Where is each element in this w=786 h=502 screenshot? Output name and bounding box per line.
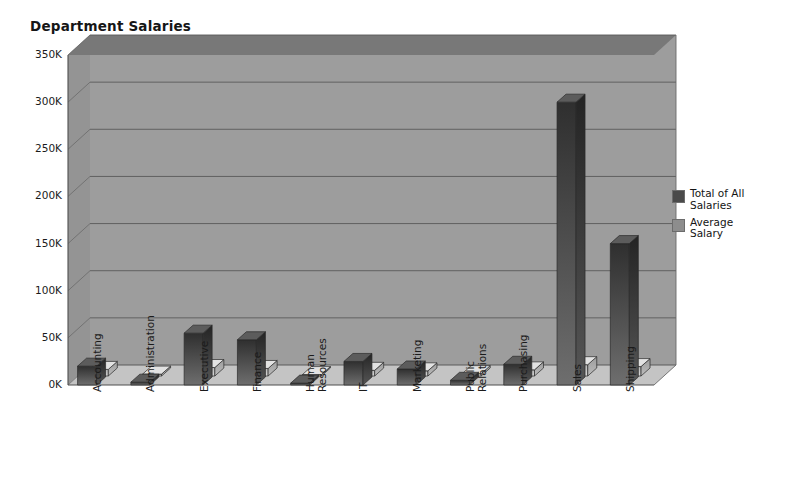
x-axis-tick-label: Shipping [625, 346, 637, 392]
chart-container: Department Salaries 0K50K100K150K200K250… [0, 0, 786, 502]
legend-item[interactable]: Average Salary [672, 217, 784, 241]
legend-item[interactable]: Total of All Salaries [672, 188, 784, 212]
x-axis-tick-label: Public Relations [465, 344, 488, 392]
x-axis-tick-label: Administration [145, 315, 157, 392]
legend-label: Average Salary [690, 217, 733, 241]
chart-legend: Total of All SalariesAverage Salary [672, 188, 784, 245]
x-axis-tick-label: Purchasing [518, 335, 530, 392]
x-axis-tick-label: Accounting [92, 333, 104, 392]
x-axis: AccountingAdministrationExecutiveFinance… [0, 0, 786, 502]
legend-label: Total of All Salaries [690, 188, 744, 212]
x-axis-tick-label: Sales [572, 364, 584, 392]
x-axis-tick-label: Marketing [412, 340, 424, 392]
legend-swatch-icon [672, 190, 685, 203]
legend-swatch-icon [672, 219, 685, 232]
x-axis-tick-label: IT [358, 382, 370, 392]
x-axis-tick-label: Finance [252, 352, 264, 392]
x-axis-tick-label: Executive [199, 341, 211, 392]
x-axis-tick-label: Human Resources [305, 338, 328, 392]
